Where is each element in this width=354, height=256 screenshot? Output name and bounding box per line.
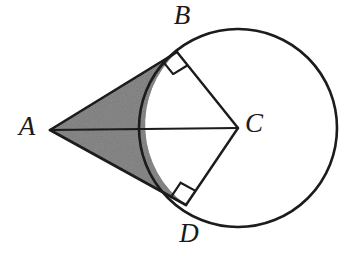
geometry-figure: A B C D xyxy=(0,0,354,256)
vertex-label-a: A xyxy=(17,111,36,141)
segment-radius-CD xyxy=(186,128,238,205)
vertex-label-b: B xyxy=(174,0,191,30)
vertex-label-c: C xyxy=(245,108,264,138)
segment-radius-CB xyxy=(177,52,238,128)
geometry-canvas: A B C D xyxy=(0,0,354,256)
vertex-label-d: D xyxy=(178,218,199,248)
